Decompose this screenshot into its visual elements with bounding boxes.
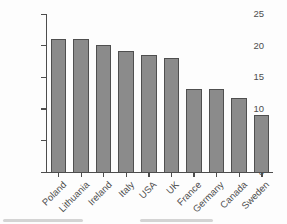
- x-tick-mark: [216, 173, 217, 177]
- y-axis-line: [46, 14, 47, 173]
- cropped-caption-artifact: [140, 219, 213, 222]
- y-tick-label: 20: [234, 41, 264, 51]
- x-label-text: USA: [137, 179, 159, 201]
- bar-canada: [231, 98, 247, 172]
- x-label-text: UK: [164, 179, 181, 196]
- bar-poland: [51, 39, 67, 172]
- x-label-text: Italy: [116, 179, 136, 199]
- plot-area: % of families in poverty 0510152025 Pola…: [47, 14, 273, 172]
- x-tick-mark: [261, 173, 262, 177]
- x-tick-mark: [81, 173, 82, 177]
- poverty-bar-chart: % of families in poverty 0510152025 Pola…: [0, 0, 287, 224]
- bar-france: [186, 89, 202, 171]
- x-tick-mark: [171, 173, 172, 177]
- cropped-caption-artifact: [3, 219, 83, 222]
- x-tick-mark: [126, 173, 127, 177]
- y-tick-label: 15: [234, 72, 264, 82]
- x-tick-mark: [148, 173, 149, 177]
- bar-usa: [141, 55, 157, 172]
- x-tick-mark: [239, 173, 240, 177]
- bar-uk: [164, 58, 180, 172]
- bar-sweden: [254, 115, 270, 172]
- x-tick-mark: [193, 173, 194, 177]
- bar-germany: [209, 89, 225, 171]
- bar-lithuania: [73, 39, 89, 172]
- bar-ireland: [96, 45, 112, 171]
- x-tick-mark: [58, 173, 59, 177]
- x-tick-mark: [103, 173, 104, 177]
- bar-italy: [118, 51, 134, 171]
- y-tick-label: 25: [234, 9, 264, 19]
